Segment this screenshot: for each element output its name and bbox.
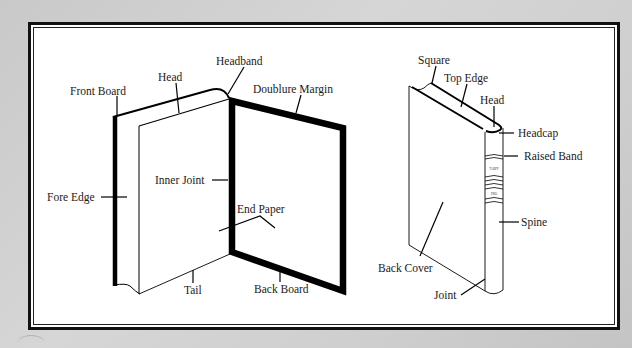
label-headband: Headband xyxy=(216,55,263,67)
label-fore-edge: Fore Edge xyxy=(47,191,95,204)
spine-title-text: TARPY xyxy=(489,167,499,171)
back-board xyxy=(232,101,343,291)
label-head-closed: Head xyxy=(480,94,505,106)
spine: TARPY PRO xyxy=(485,128,503,294)
label-spine: Spine xyxy=(521,216,547,229)
label-doublure-margin: Doublure Margin xyxy=(253,83,333,96)
open-book: Front Board Head Headband Doublure Margi… xyxy=(47,55,343,296)
label-tail: Tail xyxy=(184,284,202,296)
label-headcap: Headcap xyxy=(518,127,558,140)
label-raised-band: Raised Band xyxy=(524,150,583,162)
label-inner-joint: Inner Joint xyxy=(155,174,205,186)
top-edge xyxy=(412,83,501,132)
label-top-edge: Top Edge xyxy=(444,72,488,85)
spine-publisher-text: PRO xyxy=(491,192,498,196)
label-back-cover: Back Cover xyxy=(378,262,433,274)
background-stamp-mark xyxy=(18,335,44,348)
closed-book: TARPY PRO Square Top xyxy=(378,54,583,301)
label-joint: Joint xyxy=(434,289,457,301)
text-block xyxy=(139,99,230,294)
label-end-paper: End Paper xyxy=(237,203,285,216)
back-cover xyxy=(409,83,485,291)
label-square: Square xyxy=(418,54,450,67)
label-front-board: Front Board xyxy=(70,85,126,97)
book-anatomy-diagram: Front Board Head Headband Doublure Margi… xyxy=(0,0,632,348)
front-board xyxy=(113,89,229,294)
label-head: Head xyxy=(158,71,183,83)
label-back-board: Back Board xyxy=(254,283,309,295)
